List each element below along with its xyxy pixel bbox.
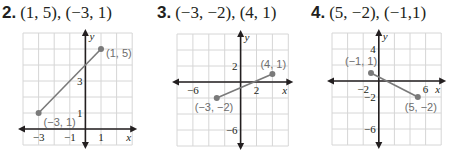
x-tick-label: 2 <box>254 84 260 96</box>
coordinate-graphs: xy−3−1131(1, 5)(−3, 1)xy−622−6(4, 1)(−3,… <box>0 0 453 156</box>
y-axis-label: y <box>88 30 94 42</box>
x-tick-label: −3 <box>33 131 45 143</box>
point-marker <box>415 94 421 100</box>
y-tick-label: −6 <box>364 123 376 135</box>
arrow-right-icon <box>130 126 137 133</box>
y-axis-label: y <box>382 30 388 42</box>
point-label: (1, 5) <box>106 47 132 59</box>
y-tick-label: 4 <box>370 43 376 55</box>
y-tick-label: 2 <box>232 60 238 72</box>
x-axis-label: x <box>434 83 440 95</box>
arrow-left-icon <box>18 126 25 133</box>
y-tick-label: −6 <box>226 124 238 136</box>
point-label: (4, 1) <box>260 58 286 70</box>
y-tick-label: −2 <box>364 91 376 103</box>
point-marker <box>368 70 374 76</box>
point-marker <box>98 46 104 52</box>
x-tick-label: −6 <box>187 84 199 96</box>
x-axis-label: x <box>125 131 131 143</box>
graph-problem-4: xy−264−2−6(−1, 1)(5, −2) <box>327 29 446 149</box>
arrow-left-icon <box>172 79 179 86</box>
x-tick-label: −1 <box>64 131 76 143</box>
x-axis-label: x <box>281 84 287 96</box>
point-label: (−1, 1) <box>345 55 377 67</box>
y-tick-label: 3 <box>77 75 83 87</box>
y-axis-label: y <box>244 31 250 43</box>
graph-problem-3: xy−622−6(4, 1)(−3, −2) <box>172 30 293 150</box>
arrow-left-icon <box>327 78 334 85</box>
point-label: (−3, 1) <box>44 116 76 128</box>
graph-problem-2: xy−3−1131(1, 5)(−3, 1) <box>18 29 137 149</box>
x-tick-label: 1 <box>98 131 104 143</box>
y-tick-label: 1 <box>77 107 83 119</box>
point-label: (−3, −2) <box>195 101 234 113</box>
point-marker <box>36 110 42 116</box>
arrow-right-icon <box>439 78 446 85</box>
point-marker <box>269 71 275 77</box>
arrow-right-icon <box>286 79 293 86</box>
point-label: (5, −2) <box>405 101 437 113</box>
x-tick-label: 6 <box>423 83 429 95</box>
